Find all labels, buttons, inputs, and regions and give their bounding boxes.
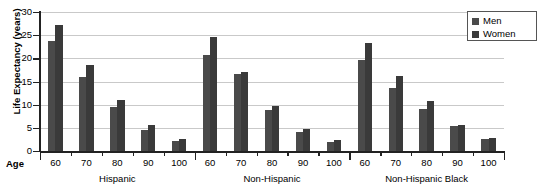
bar-women bbox=[334, 140, 341, 151]
bar-chart: Life Expectancy (years) 051015202530 Age… bbox=[0, 0, 544, 191]
bar-men bbox=[450, 126, 457, 151]
plot-area bbox=[40, 12, 504, 151]
y-axis-tick-label: 10 bbox=[0, 100, 32, 109]
x-axis-tick bbox=[380, 151, 381, 156]
x-axis-tick bbox=[473, 151, 474, 156]
bar-women bbox=[365, 43, 372, 151]
legend-item: Men bbox=[472, 15, 536, 27]
y-axis-tick bbox=[33, 105, 39, 106]
y-axis-tick bbox=[33, 128, 39, 129]
y-axis-tick-label: 0 bbox=[0, 146, 32, 155]
bar-women bbox=[272, 106, 279, 151]
x-axis-tick bbox=[71, 151, 72, 156]
x-axis-tick-label: 70 bbox=[72, 158, 100, 168]
group-label: Non-Hispanic Black bbox=[349, 174, 504, 184]
legend-item: Women bbox=[472, 28, 536, 40]
gridline bbox=[40, 12, 504, 13]
bar-women bbox=[241, 72, 248, 151]
bar-women bbox=[86, 65, 93, 151]
x-axis-tick bbox=[442, 151, 443, 156]
bar-men bbox=[389, 88, 396, 151]
gridline bbox=[40, 35, 504, 36]
x-axis-tick bbox=[349, 151, 350, 156]
x-axis-tick-label: 60 bbox=[196, 158, 224, 168]
x-axis-tick-label: 100 bbox=[165, 158, 193, 168]
x-axis-tick-label: 100 bbox=[320, 158, 348, 168]
bar-women bbox=[148, 125, 155, 151]
x-axis-tick bbox=[257, 151, 258, 156]
group-label: Hispanic bbox=[40, 174, 195, 184]
y-axis-tick-label: 20 bbox=[0, 53, 32, 62]
bar-men bbox=[481, 139, 488, 151]
bar-women bbox=[396, 76, 403, 151]
y-axis-tick bbox=[33, 12, 39, 13]
y-axis-tick-label: 25 bbox=[0, 30, 32, 39]
legend-label: Women bbox=[483, 29, 516, 39]
x-axis-tick-label: 90 bbox=[289, 158, 317, 168]
x-axis-tick-label: 80 bbox=[413, 158, 441, 168]
bar-women bbox=[303, 129, 310, 151]
y-axis-tick bbox=[33, 35, 39, 36]
x-axis-tick bbox=[226, 151, 227, 156]
bar-men bbox=[419, 109, 426, 151]
chart-legend: Men Women bbox=[467, 11, 537, 41]
bar-men bbox=[265, 110, 272, 151]
bar-men bbox=[203, 55, 210, 151]
y-axis-tick bbox=[33, 151, 39, 152]
bar-women bbox=[117, 100, 124, 151]
bar-men bbox=[79, 77, 86, 151]
group-separator-tick bbox=[504, 151, 505, 160]
x-axis-tick-label: 90 bbox=[134, 158, 162, 168]
bar-men bbox=[358, 60, 365, 151]
x-axis-tick bbox=[318, 151, 319, 156]
group-separator-tick bbox=[40, 151, 41, 160]
bar-men bbox=[141, 130, 148, 151]
x-axis-line bbox=[40, 151, 505, 153]
bar-women bbox=[179, 139, 186, 151]
y-axis-tick bbox=[33, 82, 39, 83]
bar-women bbox=[489, 138, 496, 151]
bar-women bbox=[210, 37, 217, 151]
x-axis-tick bbox=[411, 151, 412, 156]
bar-men bbox=[327, 142, 334, 151]
gridline bbox=[40, 82, 504, 83]
gridline bbox=[40, 58, 504, 59]
bar-men bbox=[234, 74, 241, 151]
x-axis-tick-label: 100 bbox=[475, 158, 503, 168]
x-axis-tick-label: 80 bbox=[258, 158, 286, 168]
bar-men bbox=[48, 41, 55, 151]
y-axis-tick-label: 5 bbox=[0, 123, 32, 132]
y-axis-tick bbox=[33, 58, 39, 59]
bar-men bbox=[110, 107, 117, 151]
x-axis-tick bbox=[195, 151, 196, 156]
x-axis-tick bbox=[102, 151, 103, 156]
y-axis-tick-label: 30 bbox=[0, 7, 32, 16]
group-label: Non-Hispanic bbox=[195, 174, 350, 184]
x-axis-tick bbox=[133, 151, 134, 156]
x-axis-tick-label: 70 bbox=[382, 158, 410, 168]
legend-label: Men bbox=[483, 16, 501, 26]
bar-women bbox=[458, 125, 465, 151]
x-axis-tick-label: 60 bbox=[351, 158, 379, 168]
bar-women bbox=[427, 101, 434, 151]
x-axis-tick-label: 60 bbox=[41, 158, 69, 168]
y-axis-title: Life Expectancy (years) bbox=[11, 0, 22, 132]
x-axis-tick-label: 80 bbox=[103, 158, 131, 168]
bar-men bbox=[296, 132, 303, 151]
x-axis-tick bbox=[287, 151, 288, 156]
square-swatch-icon bbox=[472, 18, 479, 25]
age-axis-label: Age bbox=[6, 158, 24, 169]
bar-women bbox=[55, 25, 62, 151]
x-axis-tick bbox=[164, 151, 165, 156]
x-axis-tick-label: 70 bbox=[227, 158, 255, 168]
bar-men bbox=[172, 141, 179, 151]
y-axis-line bbox=[39, 11, 41, 152]
y-axis-tick-label: 15 bbox=[0, 77, 32, 86]
x-axis-tick-label: 90 bbox=[444, 158, 472, 168]
square-swatch-icon bbox=[472, 31, 479, 38]
